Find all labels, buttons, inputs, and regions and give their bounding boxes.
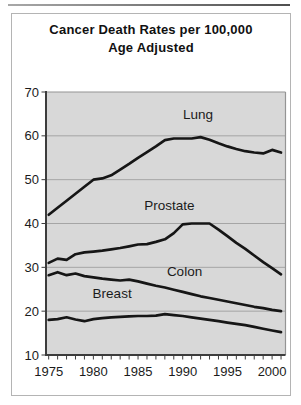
x-tick-label: 1975 bbox=[34, 364, 63, 379]
x-tick-label: 1995 bbox=[213, 364, 242, 379]
y-tick-label: 60 bbox=[25, 128, 39, 143]
y-tick-label: 10 bbox=[25, 348, 39, 363]
y-tick-label: 40 bbox=[25, 216, 39, 231]
series-label-prostate: Prostate bbox=[144, 198, 194, 213]
series-label-breast: Breast bbox=[93, 286, 132, 301]
y-tick-label: 20 bbox=[25, 304, 39, 319]
x-tick-label: 1980 bbox=[79, 364, 108, 379]
series-label-colon: Colon bbox=[167, 263, 202, 278]
x-tick-label: 2000 bbox=[258, 364, 287, 379]
x-tick-label: 1990 bbox=[168, 364, 197, 379]
y-tick-label: 50 bbox=[25, 172, 39, 187]
series-label-lung: Lung bbox=[183, 106, 213, 121]
chart-figure: Cancer Death Rates per 100,000 Age Adjus… bbox=[0, 0, 301, 405]
y-tick-label: 70 bbox=[25, 85, 39, 100]
y-tick-label: 30 bbox=[25, 260, 39, 275]
x-tick-label: 1985 bbox=[124, 364, 153, 379]
